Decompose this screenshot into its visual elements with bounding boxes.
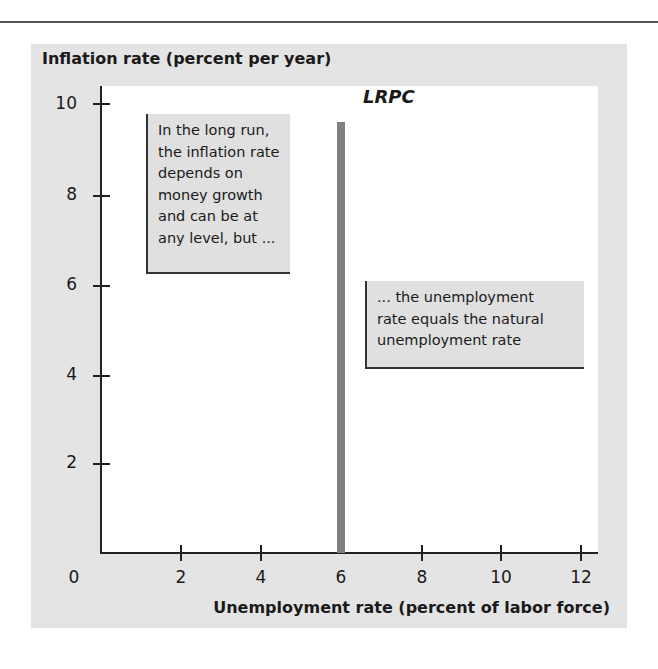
y-tick-2 xyxy=(93,463,110,465)
x-axis xyxy=(100,552,598,554)
callout-line: and can be at xyxy=(158,206,280,228)
x-tick-label: 8 xyxy=(402,567,442,587)
x-tick-label: 10 xyxy=(481,567,521,587)
callout-line: any level, but ... xyxy=(158,228,280,250)
lrpc-curve xyxy=(337,122,345,553)
origin-label: 0 xyxy=(54,567,94,587)
x-tick-8 xyxy=(421,545,423,561)
y-tick-label: 6 xyxy=(47,274,77,294)
x-tick-label: 6 xyxy=(321,567,361,587)
x-tick-12 xyxy=(580,545,582,561)
callout-line: In the long run, xyxy=(158,120,280,142)
callout-natural-unemployment: ... the unemployment rate equals the nat… xyxy=(365,281,584,369)
y-axis-title: Inflation rate (percent per year) xyxy=(42,49,331,68)
x-tick-10 xyxy=(500,545,502,561)
y-tick-4 xyxy=(93,375,110,377)
y-tick-label: 8 xyxy=(47,184,77,204)
callout-line: the inflation rate xyxy=(158,142,280,164)
callout-line: unemployment rate xyxy=(377,330,574,352)
top-rule xyxy=(0,21,658,23)
callout-line: rate equals the natural xyxy=(377,309,574,331)
y-tick-6 xyxy=(93,285,110,287)
y-axis xyxy=(100,86,102,554)
callout-line: depends on xyxy=(158,163,280,185)
callout-line: ... the unemployment xyxy=(377,287,574,309)
x-axis-title: Unemployment rate (percent of labor forc… xyxy=(213,598,610,617)
x-tick-label: 12 xyxy=(561,567,601,587)
x-tick-label: 2 xyxy=(161,567,201,587)
y-tick-label: 4 xyxy=(47,364,77,384)
y-tick-label: 10 xyxy=(47,93,77,113)
y-tick-label: 2 xyxy=(47,452,77,472)
lrpc-label: LRPC xyxy=(363,86,415,107)
x-tick-4 xyxy=(260,545,262,561)
callout-line: money growth xyxy=(158,185,280,207)
callout-long-run-inflation: In the long run, the inflation rate depe… xyxy=(146,114,290,274)
y-tick-10 xyxy=(93,103,110,105)
x-tick-2 xyxy=(180,545,182,561)
x-tick-label: 4 xyxy=(241,567,281,587)
y-tick-8 xyxy=(93,195,110,197)
